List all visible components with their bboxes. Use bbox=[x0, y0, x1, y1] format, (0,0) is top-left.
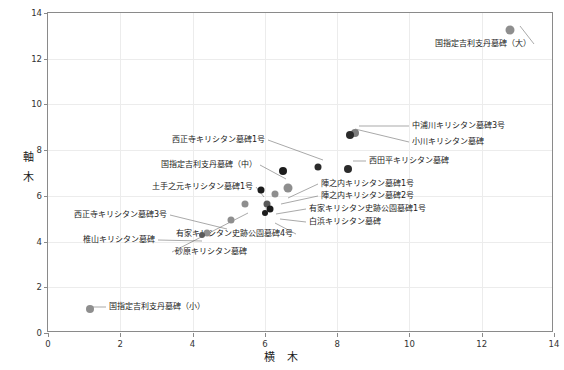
x-axis-tick-label: 8 bbox=[334, 339, 339, 349]
data-point[interactable] bbox=[346, 131, 354, 139]
y-axis-tick-label: 6 bbox=[37, 191, 42, 201]
data-point[interactable] bbox=[506, 25, 515, 34]
data-point[interactable] bbox=[271, 190, 278, 197]
data-point[interactable] bbox=[283, 184, 292, 193]
y-axis-tick bbox=[44, 287, 48, 288]
data-point[interactable] bbox=[199, 232, 205, 238]
x-axis-tick bbox=[482, 333, 483, 337]
y-axis-tick bbox=[44, 104, 48, 105]
gridline-horizontal bbox=[48, 150, 552, 151]
y-axis-tick-label: 8 bbox=[37, 145, 42, 155]
x-axis-tick bbox=[409, 333, 410, 337]
point-callout-label: 西正寺キリシタン墓碑1号 bbox=[172, 136, 265, 145]
gridline-vertical bbox=[337, 13, 338, 331]
x-axis-tick-label: 12 bbox=[476, 339, 487, 349]
data-point[interactable] bbox=[242, 201, 249, 208]
y-axis-tick-label: 2 bbox=[37, 282, 42, 292]
chart-canvas: 軸 木 横 木 0246810121402468101214 国指定吉利支丹墓碑… bbox=[0, 0, 564, 370]
y-axis-tick-label: 14 bbox=[31, 8, 42, 18]
y-axis-tick bbox=[44, 150, 48, 151]
point-callout-label: 椎山キリシタン墓碑 bbox=[83, 236, 155, 245]
y-axis-tick-label: 0 bbox=[37, 328, 42, 338]
data-point[interactable] bbox=[228, 216, 235, 223]
data-point[interactable] bbox=[257, 186, 264, 193]
y-axis-tick-label: 10 bbox=[31, 99, 42, 109]
y-axis-tick bbox=[44, 59, 48, 60]
point-callout-label: 国指定吉利支丹墓碑（中） bbox=[161, 161, 257, 170]
data-point[interactable] bbox=[267, 205, 274, 212]
data-point[interactable] bbox=[262, 210, 268, 216]
y-axis-tick bbox=[44, 333, 48, 334]
point-callout-label: 有家キリシタン史跡公園墓碑4号 bbox=[176, 230, 293, 239]
point-callout-label: 西田平キリシタン墓碑 bbox=[369, 157, 449, 166]
plot-area: 0246810121402468101214 bbox=[47, 12, 553, 332]
point-callout-label: 小川キリシタン墓碑 bbox=[412, 138, 484, 147]
data-point[interactable] bbox=[86, 305, 94, 313]
x-axis-tick-label: 6 bbox=[262, 339, 267, 349]
x-axis-tick-label: 10 bbox=[404, 339, 415, 349]
y-axis-tick bbox=[44, 196, 48, 197]
gridline-vertical bbox=[409, 13, 410, 331]
gridline-vertical bbox=[482, 13, 483, 331]
x-axis-tick-label: 2 bbox=[118, 339, 123, 349]
x-axis-tick bbox=[265, 333, 266, 337]
x-axis-tick-label: 0 bbox=[45, 339, 50, 349]
y-axis-tick-label: 4 bbox=[37, 237, 42, 247]
point-callout-label: 陣之内キリシタン墓碑1号 bbox=[321, 180, 414, 189]
x-axis-tick-label: 14 bbox=[549, 339, 560, 349]
point-callout-label: 砂原キリシタン墓碑 bbox=[175, 248, 247, 257]
gridline-vertical bbox=[265, 13, 266, 331]
point-callout-label: 国指定吉利支丹墓碑（小） bbox=[109, 303, 205, 312]
point-callout-label: 西正寺キリシタン墓碑3号 bbox=[74, 211, 167, 220]
point-callout-label: 国指定吉利支丹墓碑（大） bbox=[435, 40, 531, 49]
x-axis-tick-label: 4 bbox=[190, 339, 195, 349]
y-axis-tick bbox=[44, 242, 48, 243]
data-point[interactable] bbox=[344, 165, 352, 173]
point-callout-label: 有家キリシタン史跡公園墓碑1号 bbox=[309, 205, 426, 214]
x-axis-title: 横 木 bbox=[0, 348, 564, 364]
point-callout-label: 白浜キリシタン墓碑 bbox=[309, 218, 381, 227]
data-point[interactable] bbox=[315, 164, 322, 171]
point-callout-label: 土手之元キリシタン墓碑1号 bbox=[152, 183, 253, 192]
y-axis-tick bbox=[44, 13, 48, 14]
x-axis-tick bbox=[120, 333, 121, 337]
y-axis-tick-label: 12 bbox=[31, 54, 42, 64]
gridline-vertical bbox=[120, 13, 121, 331]
point-callout-label: 陣之内キリシタン墓碑2号 bbox=[321, 192, 414, 201]
x-axis-tick bbox=[554, 333, 555, 337]
gridline-horizontal bbox=[48, 59, 552, 60]
x-axis-tick bbox=[48, 333, 49, 337]
gridline-horizontal bbox=[48, 287, 552, 288]
point-callout-label: 中浦川キリシタン墓碑3号 bbox=[412, 122, 505, 131]
gridline-horizontal bbox=[48, 104, 552, 105]
x-axis-tick bbox=[337, 333, 338, 337]
x-axis-tick bbox=[193, 333, 194, 337]
gridline-horizontal bbox=[48, 196, 552, 197]
data-point[interactable] bbox=[279, 167, 287, 175]
gridline-vertical bbox=[193, 13, 194, 331]
